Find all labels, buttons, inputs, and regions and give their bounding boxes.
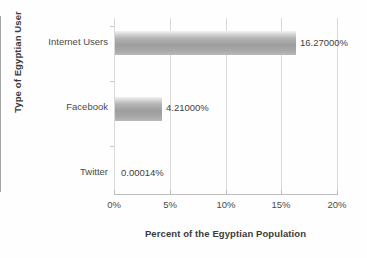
x-axis-title: Percent of the Egyptian Population <box>114 228 337 239</box>
x-tick-mark-20 <box>337 190 338 195</box>
y-axis-title: Type of Egyptian User <box>7 0 29 132</box>
value-label-facebook: 4.21000% <box>166 101 209 115</box>
x-tick-label-10: 10% <box>206 199 246 210</box>
x-tick-label-0: 0% <box>94 199 134 210</box>
x-tick-mark-0 <box>114 190 115 195</box>
x-tick-label-15: 15% <box>261 199 301 210</box>
x-tick-mark-15 <box>281 190 282 195</box>
x-tick-label-20: 20% <box>317 199 357 210</box>
bar-facebook <box>115 97 162 121</box>
x-tick-mark-5 <box>170 190 171 195</box>
value-label-twitter: 0.00014% <box>121 166 164 180</box>
y-axis-line <box>0 16 1 192</box>
x-tick-label-5: 5% <box>150 199 190 210</box>
y-tick-label-internet-users: Internet Users <box>0 36 108 47</box>
bar-chart: Type of Egyptian User Internet Users Fac… <box>0 0 367 258</box>
y-tick-label-facebook: Facebook <box>0 101 108 112</box>
value-label-internet-users: 16.27000% <box>300 36 348 50</box>
x-tick-mark-10 <box>226 190 227 195</box>
bar-internet-users <box>115 31 296 55</box>
y-tick-label-twitter: Twitter <box>0 166 108 177</box>
